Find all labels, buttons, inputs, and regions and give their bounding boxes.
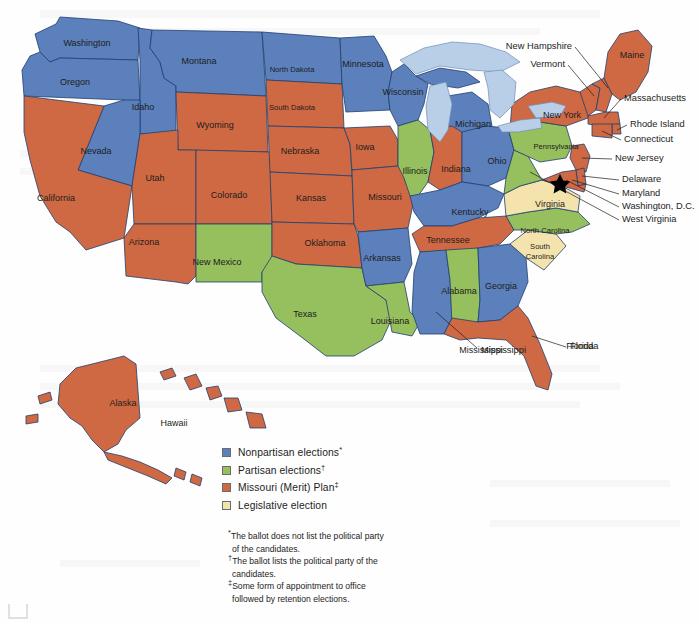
state-alaska-aleutians[interactable] <box>104 452 172 484</box>
leader-new-hampshire <box>575 47 608 88</box>
legend-mark-partisan: † <box>321 462 325 471</box>
legend-item-nonpartisan[interactable]: Nonpartisan elections* <box>222 444 522 462</box>
state-alaska-island[interactable] <box>38 392 52 404</box>
callout-label-florida: Florida <box>570 341 599 351</box>
state-label-wisconsin: Wisconsin <box>382 87 423 97</box>
state-label-hawaii: Hawaii <box>160 418 187 428</box>
state-hawaii-island[interactable] <box>224 398 242 412</box>
state-label-oregon: Oregon <box>60 77 90 87</box>
legend-item-partisan[interactable]: Partisan elections† <box>222 462 522 480</box>
state-label-ohio: Ohio <box>487 156 506 166</box>
callout-label-connecticut: Connecticut <box>624 134 674 144</box>
legend-label-legislative: Legislative election <box>238 500 327 511</box>
state-label-indiana: Indiana <box>441 164 471 174</box>
state-label-kansas: Kansas <box>296 193 327 203</box>
state-indiana[interactable] <box>428 126 462 190</box>
state-label-texas: Texas <box>293 309 317 319</box>
state-shapes <box>22 17 652 486</box>
state-label-south-dakota: South Dakota <box>269 103 316 112</box>
legend-item-legislative[interactable]: Legislative election <box>222 497 522 515</box>
state-label-maine: Maine <box>620 50 645 60</box>
state-label-louisiana: Louisiana <box>371 316 410 326</box>
footnote-merit-line1: ‡Some form of appointment to office <box>228 580 508 593</box>
legend-swatch-partisan <box>222 466 231 475</box>
state-north-dakota[interactable] <box>262 32 342 84</box>
state-label-georgia: Georgia <box>485 281 517 291</box>
callout-label-mississippi: Mississippi <box>481 345 526 355</box>
state-label-illinois: Illinois <box>402 166 428 176</box>
state-label-colorado: Colorado <box>211 190 248 200</box>
callout-label-massachusetts: Massachusetts <box>624 93 686 103</box>
state-label-nebraska: Nebraska <box>281 146 320 156</box>
footnote-partisan-line1: †The ballot lists the political party of… <box>228 555 508 568</box>
footnote-nonpartisan-line2: of the candidates. <box>228 543 508 556</box>
state-alaska-aleutians[interactable] <box>174 468 186 480</box>
legend-swatch-legislative <box>222 501 231 510</box>
state-label-wyoming: Wyoming <box>196 120 233 130</box>
state-label-california: California <box>37 193 75 203</box>
legend-swatch-merit <box>222 483 231 492</box>
state-hawaii-island[interactable] <box>184 374 202 390</box>
state-minnesota[interactable] <box>340 36 392 112</box>
state-label-oklahoma: Oklahoma <box>304 238 345 248</box>
lake-superior <box>400 42 520 74</box>
state-label-michigan: Michigan <box>455 119 491 129</box>
legend-label-merit: Missouri (Merit) Plan‡ <box>238 482 339 493</box>
legend-item-merit[interactable]: Missouri (Merit) Plan‡ <box>222 479 522 497</box>
callout-label-washington-d-c: Washington, D.C. <box>622 201 695 211</box>
legend-mark-nonpartisan: * <box>339 445 342 454</box>
footnote-nonpartisan-line1: *The ballot does not list the political … <box>228 530 508 543</box>
state-hawaii-island[interactable] <box>206 386 222 400</box>
state-label-pennsylvania: Pennsylvania <box>533 142 579 151</box>
state-label-arizona: Arizona <box>129 237 160 247</box>
state-label-kentucky: Kentucky <box>451 207 489 217</box>
state-label-missouri: Missouri <box>368 192 402 202</box>
state-label-alabama: Alabama <box>441 286 477 296</box>
state-label-new-york: New York <box>543 110 582 120</box>
callout-label-west-virginia: West Virginia <box>622 214 677 224</box>
state-alaska-aleutians[interactable] <box>190 474 202 486</box>
callout-label-rhode-island: Rhode Island <box>630 119 685 129</box>
legend-swatch-nonpartisan <box>222 448 231 457</box>
state-label-new-mexico: New Mexico <box>192 257 241 267</box>
us-judicial-selection-map: .nonpartisan{fill:#5b80bc;} .partisan{fi… <box>0 0 699 624</box>
state-label-washington: Washington <box>63 38 110 48</box>
callout-label-maryland: Maryland <box>622 188 660 198</box>
callout-label-delaware: Delaware <box>622 174 661 184</box>
state-label-montana: Montana <box>181 56 216 66</box>
callout-label-new-jersey: New Jersey <box>615 153 664 163</box>
footnote-merit-line2: followed by retention elections. <box>228 593 508 606</box>
callout-label-vermont: Vermont <box>530 59 565 69</box>
legend-label-nonpartisan: Nonpartisan elections* <box>238 447 342 458</box>
callout-label-new-hampshire: New Hampshire <box>506 41 572 51</box>
state-label-north-dakota: North Dakota <box>270 65 316 74</box>
state-hawaii-island[interactable] <box>246 412 266 428</box>
state-label-alaska: Alaska <box>109 398 136 408</box>
state-alaska-island[interactable] <box>26 414 38 424</box>
footnote-partisan-line2: candidates. <box>228 568 508 581</box>
state-arizona[interactable] <box>124 224 196 284</box>
map-legend: Nonpartisan elections* Partisan election… <box>222 444 522 514</box>
legend-footnotes: *The ballot does not list the political … <box>228 530 508 606</box>
state-label-minnesota: Minnesota <box>342 59 384 69</box>
state-label-virginia: Virginia <box>535 199 565 209</box>
legend-mark-merit: ‡ <box>335 480 339 489</box>
state-hawaii-island[interactable] <box>160 368 176 380</box>
state-label-iowa: Iowa <box>355 142 374 152</box>
state-label-idaho: Idaho <box>132 102 155 112</box>
state-label-arkansas: Arkansas <box>363 253 401 263</box>
page-corner-mark <box>8 604 28 619</box>
state-label-tennessee: Tennessee <box>426 235 470 245</box>
state-colorado[interactable] <box>196 150 272 224</box>
state-label-utah: Utah <box>145 173 164 183</box>
leader-delaware <box>582 176 619 180</box>
legend-label-partisan: Partisan elections† <box>238 465 325 476</box>
state-new-mexico[interactable] <box>196 224 272 282</box>
state-maine[interactable] <box>604 30 652 100</box>
state-label-nevada: Nevada <box>80 146 111 156</box>
state-label-north-carolina: North Carolina <box>521 226 571 235</box>
